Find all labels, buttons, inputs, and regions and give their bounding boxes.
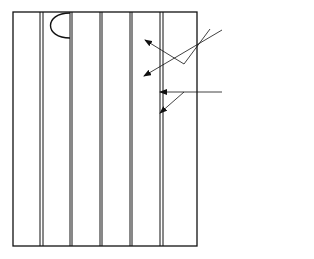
serpentine-ribbons — [51, 13, 71, 38]
burner-port-diagram — [0, 0, 314, 259]
column-dividers — [40, 12, 163, 246]
leader-lines — [144, 29, 222, 113]
burner-outer-frame — [13, 12, 197, 246]
